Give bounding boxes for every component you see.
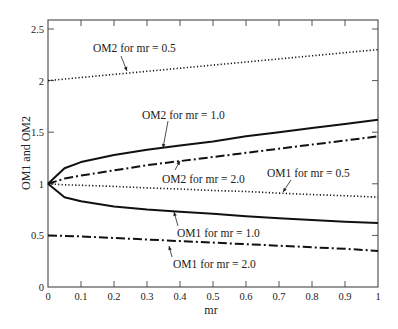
series-line bbox=[48, 184, 378, 197]
arrowhead-icon bbox=[283, 188, 287, 192]
annotation-label: OM1 for mr = 1.0 bbox=[177, 227, 260, 239]
x-tick-label: 1 bbox=[375, 291, 380, 302]
annotation-label: OM2 for mr = 0.5 bbox=[93, 42, 176, 54]
y-tick-label: 1 bbox=[39, 179, 44, 190]
y-tick-label: 2 bbox=[39, 76, 44, 87]
y-tick-label: 0.5 bbox=[31, 230, 44, 241]
x-tick-label: 0 bbox=[45, 291, 50, 302]
x-axis-label: mr bbox=[204, 303, 217, 317]
x-tick-label: 0.9 bbox=[338, 291, 351, 302]
data-series bbox=[48, 50, 378, 251]
annotation-label: OM1 for mr = 0.5 bbox=[267, 167, 350, 179]
series-line bbox=[48, 184, 378, 223]
annotation-label: OM2 for mr = 1.0 bbox=[142, 109, 225, 121]
line-chart: 00.10.20.30.40.50.60.70.80.91 00.511.522… bbox=[0, 0, 398, 329]
y-axis-label: OM1 and OM2 bbox=[19, 116, 33, 190]
plot-frame bbox=[48, 20, 378, 287]
x-tick-label: 0.7 bbox=[272, 291, 285, 302]
series-line bbox=[48, 50, 378, 81]
y-tick-label: 0 bbox=[39, 282, 44, 293]
x-tick-label: 0.4 bbox=[173, 291, 187, 302]
x-tick-label: 0.6 bbox=[239, 291, 252, 302]
annotation-label: OM1 for mr = 2.0 bbox=[173, 258, 256, 270]
annotation-label: OM2 for mr = 2.0 bbox=[162, 173, 245, 185]
x-tick-label: 0.3 bbox=[140, 291, 153, 302]
y-tick-label: 2.5 bbox=[31, 24, 44, 35]
x-tick-label: 0.8 bbox=[305, 291, 318, 302]
x-tick-label: 0.1 bbox=[74, 291, 87, 302]
x-tick-label: 0.2 bbox=[107, 291, 120, 302]
annotation-arrow bbox=[163, 121, 168, 148]
x-tick-label: 0.5 bbox=[206, 291, 219, 302]
